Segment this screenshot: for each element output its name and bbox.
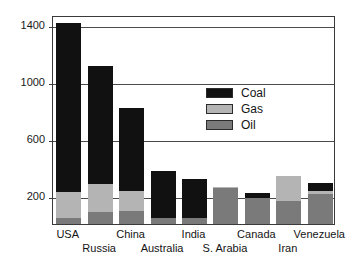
bar-australia[interactable] — [151, 171, 176, 224]
bar-segment-oil — [119, 211, 144, 225]
y-tick-mark — [49, 84, 53, 85]
legend-item-oil[interactable]: Oil — [206, 118, 298, 131]
x-tick-label: China — [116, 228, 145, 240]
x-tick-label: Australia — [141, 242, 184, 254]
bar-segment-oil — [56, 218, 81, 224]
bar-usa[interactable] — [56, 23, 81, 224]
legend-item-gas[interactable]: Gas — [206, 102, 298, 115]
x-tick-label: India — [182, 228, 206, 240]
bar-canada[interactable] — [245, 193, 270, 224]
y-tick-label: 200 — [27, 191, 45, 202]
bar-segment-oil — [276, 201, 301, 224]
x-tick-label: Venezuela — [294, 228, 345, 240]
bar-segment-coal — [88, 66, 113, 184]
bar-segment-oil — [88, 212, 113, 224]
y-tick-label: 1400 — [21, 20, 45, 31]
x-tick-label: S. Arabia — [203, 242, 248, 254]
bar-segment-coal — [182, 179, 207, 218]
legend-swatch-coal-icon — [206, 88, 233, 98]
bar-segment-coal — [119, 108, 144, 190]
y-tick-label: 1000 — [21, 77, 45, 88]
bar-segment-oil — [151, 218, 176, 224]
bar-iran[interactable] — [276, 176, 301, 224]
bar-s-arabia[interactable] — [213, 187, 238, 224]
bar-segment-coal — [308, 183, 333, 191]
legend-swatch-oil-icon — [206, 120, 233, 130]
bar-india[interactable] — [182, 179, 207, 224]
legend-label: Gas — [241, 103, 263, 115]
bar-segment-oil — [213, 188, 238, 224]
x-tick-label: Canada — [237, 228, 276, 240]
bar-segment-gas — [56, 192, 81, 218]
legend-label: Coal — [241, 87, 266, 99]
bar-segment-gas — [88, 184, 113, 212]
y-tick-mark — [49, 27, 53, 28]
x-tick-label: Russia — [82, 242, 116, 254]
y-tick-mark — [49, 198, 53, 199]
x-axis: USARussiaChinaAustraliaIndiaS. ArabiaCan… — [0, 226, 352, 266]
y-tick-mark — [49, 141, 53, 142]
bar-segment-oil — [245, 198, 270, 224]
chart-legend: CoalGasOil — [206, 86, 298, 134]
y-tick-label: 600 — [27, 134, 45, 145]
bar-china[interactable] — [119, 108, 144, 224]
bar-segment-coal — [56, 23, 81, 192]
bar-segment-oil — [182, 218, 207, 224]
bar-segment-gas — [119, 191, 144, 211]
x-tick-label: USA — [56, 228, 79, 240]
gridline-1400 — [53, 27, 334, 28]
bar-venezuela[interactable] — [308, 183, 333, 224]
legend-item-coal[interactable]: Coal — [206, 86, 298, 99]
stacked-bar-chart: 20060010001400 CoalGasOil USARussiaChina… — [0, 0, 352, 266]
bar-russia[interactable] — [88, 66, 113, 225]
legend-swatch-gas-icon — [206, 104, 233, 114]
bar-segment-coal — [151, 171, 176, 218]
legend-label: Oil — [241, 119, 256, 131]
bar-segment-gas — [276, 176, 301, 201]
x-tick-label: Iran — [278, 242, 297, 254]
bar-segment-oil — [308, 194, 333, 224]
